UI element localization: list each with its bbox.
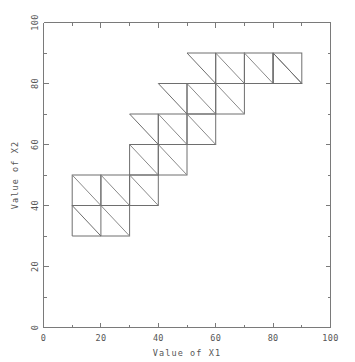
mesh-half-cell xyxy=(158,84,187,115)
mesh-diagonal xyxy=(101,175,130,206)
y-tick-label: 40 xyxy=(30,200,40,211)
mesh-diagonal xyxy=(130,145,159,176)
mesh-half-cell xyxy=(72,206,101,237)
mesh-half-cell xyxy=(273,53,302,84)
y-tick-label: 80 xyxy=(30,78,40,89)
mesh-diagonal xyxy=(158,114,187,145)
y-tick-label: 100 xyxy=(30,14,40,30)
triangulated-mesh xyxy=(72,53,302,236)
x-axis-tick-labels: 020406080100 xyxy=(41,333,339,343)
x-axis-title: Value of X1 xyxy=(153,348,221,358)
y-tick-label: 60 xyxy=(30,139,40,150)
mesh-diagonal xyxy=(101,206,130,237)
x-tick-label: 0 xyxy=(41,333,46,343)
chart-container: 020406080100 020406080100 Value of X1 Va… xyxy=(0,0,355,362)
mesh-diagonal xyxy=(216,53,245,84)
mesh-half-cell xyxy=(187,53,216,84)
mesh-half-cell xyxy=(130,114,159,145)
y-tick-label: 0 xyxy=(30,325,40,330)
mesh-diagonal xyxy=(187,114,216,145)
x-tick-label: 40 xyxy=(153,333,164,343)
mesh-diagonal xyxy=(187,84,216,115)
y-axis-tick-labels: 020406080100 xyxy=(30,14,40,330)
x-tick-label: 20 xyxy=(95,333,106,343)
chart-canvas: 020406080100 020406080100 Value of X1 Va… xyxy=(0,0,355,362)
mesh-diagonal xyxy=(216,84,245,115)
x-tick-label: 80 xyxy=(268,333,279,343)
mesh-diagonal xyxy=(244,53,273,84)
x-tick-label: 100 xyxy=(322,333,338,343)
mesh-diagonal xyxy=(130,175,159,206)
y-axis-title: Value of X2 xyxy=(10,141,20,209)
mesh-diagonal xyxy=(158,145,187,176)
y-tick-label: 20 xyxy=(30,261,40,272)
mesh-diagonal xyxy=(72,175,101,206)
x-tick-label: 60 xyxy=(210,333,221,343)
